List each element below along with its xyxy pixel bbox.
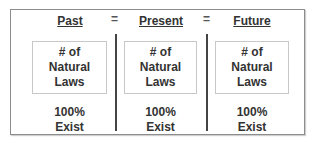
footer-future-percent: 100% [215,105,289,120]
footer-past-label: Exist [32,120,107,135]
footer-present: 100% Exist [124,105,197,135]
footer-future-label: Exist [215,120,289,135]
box-past-line-1: # of [59,45,80,60]
divider-2 [206,34,208,131]
header-future: Future [213,14,291,28]
box-present-line-2: Natural [140,60,181,75]
equals-sign-2: = [203,12,210,26]
footer-present-label: Exist [124,120,197,135]
footer-present-percent: 100% [124,105,197,120]
box-present-line-3: Laws [145,75,175,90]
box-past-line-3: Laws [54,75,84,90]
footer-past: 100% Exist [32,105,107,135]
header-past: Past [32,14,108,28]
header-present: Present [122,14,200,28]
footer-future: 100% Exist [215,105,289,135]
box-present: # of Natural Laws [124,41,197,94]
footer-past-percent: 100% [32,105,107,120]
divider-1 [115,34,117,131]
box-future-line-3: Laws [237,75,267,90]
equals-sign-1: = [111,12,118,26]
box-past: # of Natural Laws [32,41,107,94]
box-future: # of Natural Laws [215,41,289,94]
box-future-line-2: Natural [231,60,272,75]
box-past-line-2: Natural [49,60,90,75]
box-present-line-1: # of [150,45,171,60]
box-future-line-1: # of [241,45,262,60]
